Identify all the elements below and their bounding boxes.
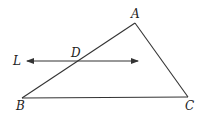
triangle-diagram: A B C D L xyxy=(0,0,202,114)
label-a: A xyxy=(130,7,140,21)
segment-ca xyxy=(135,23,188,97)
label-d: D xyxy=(70,46,81,60)
label-l: L xyxy=(12,54,21,68)
label-b: B xyxy=(15,99,25,113)
label-c: C xyxy=(185,99,194,113)
segment-bc xyxy=(22,97,188,98)
